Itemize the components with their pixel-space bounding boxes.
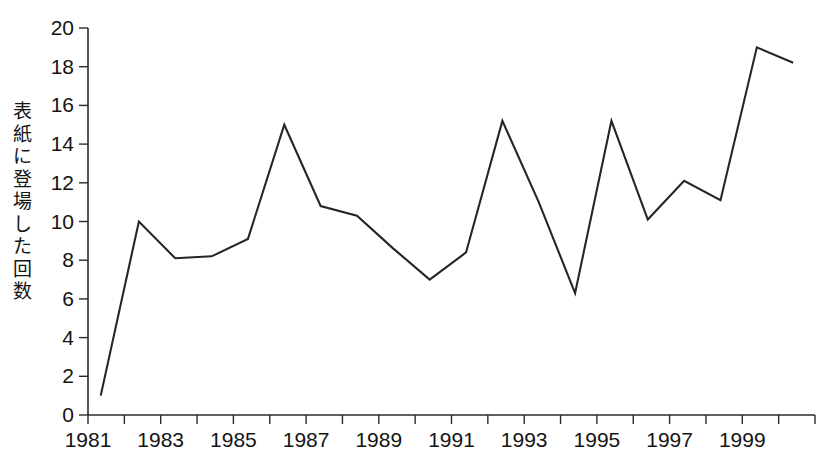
x-tick-label: 1997 — [646, 428, 693, 451]
y-axis-label-char: 場 — [13, 190, 32, 212]
x-tick-label: 1999 — [719, 428, 766, 451]
y-tick-label: 8 — [62, 248, 74, 271]
y-axis-label-char: 数 — [13, 280, 32, 302]
y-tick-label: 14 — [51, 132, 75, 155]
y-axis-label-char: 登 — [13, 168, 32, 190]
x-tick-label: 1983 — [137, 428, 184, 451]
y-axis-label: 表紙に登場した回数 — [13, 100, 32, 302]
x-tick-label: 1991 — [428, 428, 475, 451]
y-axis-label-char: し — [13, 213, 32, 235]
y-axis-label-char: た — [13, 235, 32, 257]
line-chart: 0246810121416182019811983198519871989199… — [0, 0, 829, 476]
y-tick-label: 0 — [62, 403, 74, 426]
y-tick-label: 10 — [51, 210, 74, 233]
x-tick-label: 1985 — [210, 428, 257, 451]
x-tick-label: 1993 — [501, 428, 548, 451]
y-tick-label: 4 — [62, 326, 74, 349]
y-tick-label: 18 — [51, 55, 74, 78]
y-tick-label: 6 — [62, 287, 74, 310]
y-axis-label-char: 回 — [13, 258, 32, 280]
y-tick-label: 20 — [51, 16, 74, 39]
x-tick-label: 1989 — [355, 428, 402, 451]
x-tick-label: 1995 — [574, 428, 621, 451]
y-axis-label-char: 表 — [13, 100, 32, 122]
x-tick-label: 1981 — [65, 428, 112, 451]
y-tick-label: 16 — [51, 93, 74, 116]
x-tick-label: 1987 — [283, 428, 330, 451]
y-tick-label: 2 — [62, 364, 74, 387]
data-series-line — [101, 47, 793, 395]
y-axis-label-char: に — [13, 145, 32, 167]
y-tick-label: 12 — [51, 171, 74, 194]
chart-canvas: 0246810121416182019811983198519871989199… — [0, 0, 829, 476]
y-axis-label-char: 紙 — [13, 123, 32, 145]
